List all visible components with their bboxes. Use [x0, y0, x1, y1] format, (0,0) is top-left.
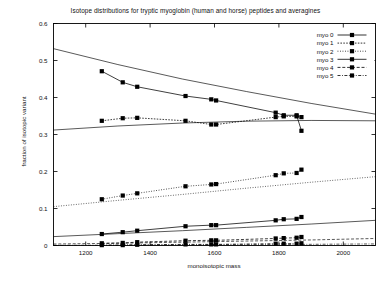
data-point-marker [121, 116, 125, 120]
data-point-marker [282, 217, 286, 221]
data-point-marker [183, 119, 187, 123]
data-point-marker [135, 229, 139, 233]
data-point-marker [209, 122, 213, 126]
data-point-marker [214, 122, 218, 126]
legend-label: myo 2 [317, 48, 334, 55]
data-point-marker [209, 97, 213, 101]
data-point-marker [282, 242, 286, 246]
data-point-marker [274, 111, 278, 115]
data-point-marker [209, 242, 213, 246]
data-point-marker [100, 232, 104, 236]
data-point-marker [274, 242, 278, 246]
data-point-marker [299, 235, 303, 239]
data-point-marker [209, 182, 213, 186]
data-point-marker [183, 184, 187, 188]
data-point-marker [100, 69, 104, 73]
legend-marker-sample [350, 73, 354, 77]
legend-label: myo 1 [317, 39, 334, 46]
data-point-marker [183, 94, 187, 98]
data-point-marker [214, 238, 218, 242]
legend-label: myo 0 [317, 31, 334, 38]
chart-legend: myo 0myo 1myo 2myo 3myo 4myo 5 [297, 30, 375, 82]
data-point-marker [299, 115, 303, 119]
data-point-marker [121, 193, 125, 197]
data-point-marker [183, 224, 187, 228]
data-point-marker [299, 129, 303, 133]
data-point-marker [121, 80, 125, 84]
series-line [102, 170, 302, 200]
data-point-marker [100, 243, 104, 247]
data-point-marker [274, 115, 278, 119]
data-point-marker [282, 171, 286, 175]
series-line [102, 237, 302, 243]
data-point-marker [274, 218, 278, 222]
data-point-marker [295, 236, 299, 240]
legend-marker-sample [350, 41, 354, 45]
chart-figure: Isotope distributions for tryptic myoglo… [0, 0, 391, 281]
legend-label: myo 4 [317, 64, 334, 71]
data-point-marker [183, 239, 187, 243]
data-point-marker [209, 223, 213, 227]
data-point-marker [135, 243, 139, 247]
data-series [100, 69, 304, 247]
data-point-marker [209, 238, 213, 242]
data-point-marker [214, 242, 218, 246]
legend-marker-sample [350, 49, 354, 53]
legend-marker-sample [350, 65, 354, 69]
legend-marker-sample [350, 33, 354, 37]
data-point-marker [100, 197, 104, 201]
data-point-marker [135, 191, 139, 195]
plot-area: myo 0myo 1myo 2myo 3myo 4myo 5 [0, 0, 391, 281]
data-point-marker [214, 182, 218, 186]
series-line [102, 116, 302, 124]
data-point-marker [121, 243, 125, 247]
data-point-marker [214, 98, 218, 102]
data-point-marker [295, 171, 299, 175]
data-point-marker [299, 215, 303, 219]
data-point-marker [295, 217, 299, 221]
series-line [102, 243, 302, 245]
data-point-marker [214, 223, 218, 227]
legend-label: myo 5 [317, 72, 334, 79]
series-line [102, 71, 302, 131]
data-point-marker [135, 85, 139, 89]
data-point-marker [274, 173, 278, 177]
data-point-marker [295, 242, 299, 246]
data-point-marker [183, 242, 187, 246]
data-point-marker [274, 236, 278, 240]
data-point-marker [299, 241, 303, 245]
data-point-marker [135, 116, 139, 120]
data-point-marker [299, 168, 303, 172]
data-point-marker [295, 114, 299, 118]
legend-marker-sample [350, 57, 354, 61]
data-point-marker [282, 236, 286, 240]
legend-label: myo 3 [317, 56, 334, 63]
series-line [102, 217, 302, 234]
data-point-marker [121, 230, 125, 234]
data-point-marker [100, 119, 104, 123]
data-point-marker [282, 114, 286, 118]
averagine-curve [54, 177, 376, 207]
